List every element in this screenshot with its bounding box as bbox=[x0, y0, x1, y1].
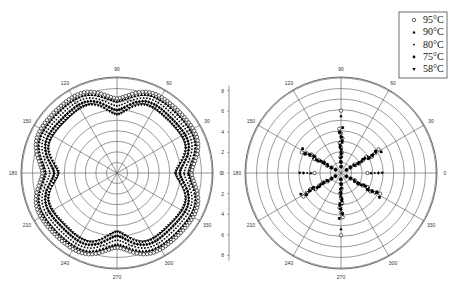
radial-tick-label: 0 bbox=[221, 170, 224, 176]
radial-tick-label: 8 bbox=[221, 88, 224, 94]
angle-tick-label: 90 bbox=[338, 66, 344, 72]
radial-tick-label: 2 bbox=[221, 149, 224, 155]
radial-axis: 864202468 bbox=[221, 85, 229, 260]
left-polar-plot: 0306090120150180210240270300330 bbox=[9, 66, 223, 280]
angle-tick-label: 150 bbox=[247, 118, 256, 124]
radial-tick-label: 2 bbox=[221, 191, 224, 197]
angle-tick-label: 240 bbox=[285, 260, 294, 266]
polar-figure: 0306090120150180210240270300330 86420246… bbox=[0, 0, 457, 293]
legend-label: 90°C bbox=[423, 26, 444, 37]
legend-label: 75°C bbox=[423, 51, 444, 62]
legend: 95°C90°C80°C75°C58°C bbox=[399, 12, 447, 78]
radial-tick-label: 8 bbox=[221, 252, 224, 258]
radial-tick-label: 4 bbox=[221, 211, 224, 217]
angle-tick-label: 300 bbox=[165, 260, 174, 266]
angle-tick-label: 240 bbox=[61, 260, 70, 266]
radial-tick-label: 4 bbox=[221, 129, 224, 135]
angle-tick-label: 330 bbox=[427, 222, 436, 228]
angle-tick-label: 210 bbox=[247, 222, 256, 228]
legend-label: 80°C bbox=[423, 39, 444, 50]
radial-tick-label: 6 bbox=[221, 108, 224, 114]
angle-tick-label: 120 bbox=[285, 80, 294, 86]
angle-tick-label: 270 bbox=[113, 274, 122, 280]
angle-tick-label: 270 bbox=[337, 274, 346, 280]
right-polar-plot: 0306090120150180210240270300330 bbox=[233, 66, 447, 280]
radial-tick-label: 6 bbox=[221, 232, 224, 238]
angle-tick-label: 60 bbox=[390, 80, 396, 86]
angle-tick-label: 330 bbox=[203, 222, 212, 228]
angle-tick-label: 30 bbox=[428, 118, 434, 124]
angle-tick-label: 30 bbox=[204, 118, 210, 124]
legend-label: 95°C bbox=[423, 14, 444, 25]
angle-tick-label: 180 bbox=[233, 170, 242, 176]
angle-tick-label: 150 bbox=[23, 118, 32, 124]
angle-tick-label: 210 bbox=[23, 222, 32, 228]
angle-tick-label: 180 bbox=[9, 170, 18, 176]
angle-tick-label: 120 bbox=[61, 80, 70, 86]
angle-tick-label: 300 bbox=[389, 260, 398, 266]
angle-tick-label: 90 bbox=[114, 66, 120, 72]
angle-tick-label: 0 bbox=[444, 170, 447, 176]
legend-label: 58°C bbox=[423, 63, 444, 74]
angle-tick-label: 60 bbox=[166, 80, 172, 86]
